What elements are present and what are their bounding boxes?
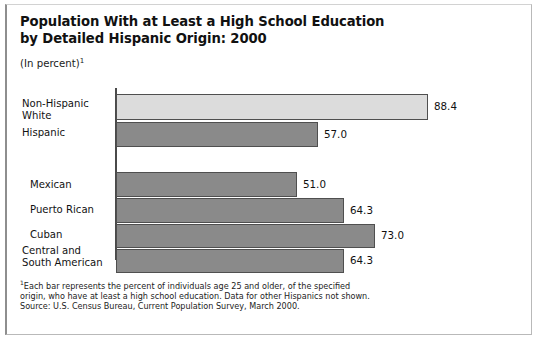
value-label-cuban: 73.0 (381, 229, 404, 241)
category-label-cuban: Cuban (30, 229, 122, 241)
bar-mexican (116, 172, 297, 197)
category-label-non-hispanic-white: Non-Hispanic White (22, 98, 114, 121)
category-label-puerto-rican: Puerto Rican (30, 204, 122, 216)
value-label-puerto-rican: 64.3 (350, 204, 373, 216)
footnote-line-2: origin, who have at least a high school … (20, 291, 440, 301)
footnote-block: 1Each bar represents the percent of indi… (20, 281, 440, 311)
footnote-line-1-text: Each bar represents the percent of indiv… (24, 281, 350, 291)
value-label-hispanic: 57.0 (324, 128, 347, 140)
bar-central-and-south-american (116, 249, 344, 273)
bar-non-hispanic-white (116, 94, 428, 120)
footnote-source-line: Source: U.S. Census Bureau, Current Popu… (20, 301, 440, 311)
bar-puerto-rican (116, 198, 344, 223)
category-label-hispanic: Hispanic (22, 127, 114, 139)
category-label-central-and-south-american: Central and South American (22, 245, 114, 268)
value-label-non-hispanic-white: 88.4 (434, 100, 457, 112)
bar-cuban (116, 224, 375, 248)
value-label-central-and-south-american: 64.3 (350, 254, 373, 266)
value-label-mexican: 51.0 (303, 178, 326, 190)
bar-hispanic (116, 122, 318, 147)
footnote-line-1: 1Each bar represents the percent of indi… (20, 281, 440, 291)
category-label-mexican: Mexican (30, 179, 122, 191)
